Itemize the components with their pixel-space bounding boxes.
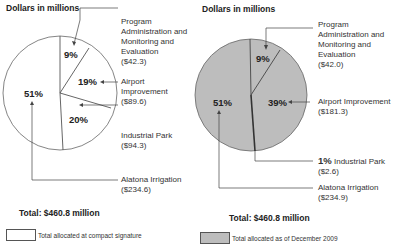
left-label-airport: Airport Improvement ($89.6) [121, 77, 168, 107]
left-pct-airport: 19% [78, 76, 97, 87]
right-chart-title: Dollars in millions [202, 4, 275, 14]
right-label-program-admin: Program Administration and Monitoring an… [318, 20, 384, 70]
right-pct-program-admin: 9% [256, 53, 270, 64]
left-total: Total: $460.8 million [19, 208, 100, 218]
right-pct-airport: 39% [268, 97, 287, 108]
left-pct-program-admin: 9% [64, 49, 78, 60]
right-pie [195, 39, 307, 151]
legend-swatch-december-2009 [200, 232, 230, 244]
legend-compact-signature: Total allocated at compact signature [38, 232, 142, 239]
left-label-program-admin: Program Administration and Monitoring an… [121, 17, 187, 67]
left-label-industrial: Industrial Park ($94.3) [121, 131, 172, 151]
right-pct-alatona: 51% [213, 97, 232, 108]
legend-swatch-compact-signature [6, 229, 36, 241]
right-pct-industrial: 1% [318, 155, 332, 166]
left-pie [3, 36, 117, 150]
left-chart-title: Dollars in millions [6, 3, 79, 13]
left-pct-industrial: 20% [69, 114, 88, 125]
right-label-airport: Airport Improvement ($181.3) [318, 97, 390, 117]
left-label-alatona: Alatona Irrigation ($234.6) [121, 175, 181, 195]
legend-december-2009: Total allocated as of December 2009 [232, 235, 338, 242]
right-label-industrial: 1% Industrial Park ($2.6) [318, 156, 385, 177]
right-label-alatona: Alatona Irrigation ($234.9) [318, 183, 378, 203]
left-pct-alatona: 51% [24, 88, 43, 99]
right-total: Total: $460.8 million [229, 213, 310, 223]
